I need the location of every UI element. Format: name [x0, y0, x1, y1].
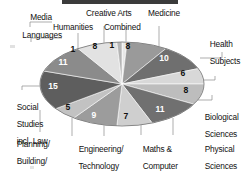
- label-languages: Languages: [0, 31, 62, 40]
- label-engineering-line1: Engineering/: [79, 144, 124, 154]
- value-biological: 8: [184, 85, 189, 95]
- label-physical-line2: Sciences: [205, 161, 237, 171]
- label-maths-line2: Computer: [143, 161, 178, 171]
- label-creative-arts: Creative Arts: [86, 9, 132, 18]
- label-health-subjects-line1: Health: [210, 39, 233, 49]
- label-planning-line2: Building/: [17, 156, 47, 166]
- label-social-line1: Social: [17, 102, 39, 112]
- label-media: Media: [0, 13, 52, 22]
- pie-ellipse-group: [40, 42, 204, 126]
- label-physical-line1: Physical: [205, 144, 235, 154]
- value-creative-arts: 1: [110, 40, 115, 50]
- value-media: 1: [71, 44, 76, 54]
- value-planning: 5: [66, 102, 71, 112]
- label-physical-sciences: Physical Sciences: [196, 136, 237, 172]
- value-engineering: 9: [92, 110, 97, 120]
- label-maths-line1: Maths &: [143, 144, 172, 154]
- value-combined: 8: [126, 41, 131, 51]
- label-social-line3: incl. Law: [17, 136, 48, 146]
- value-health-subjects: 6: [181, 68, 186, 78]
- label-social-studies: Social Studies incl. Law: [8, 94, 48, 154]
- value-humanities: 8: [93, 41, 98, 51]
- label-maths-computer: Maths & Computer: [134, 136, 178, 172]
- label-social-line2: Studies: [17, 119, 44, 129]
- pie-slices: [40, 42, 204, 126]
- value-social: 15: [48, 81, 58, 91]
- label-engineering-line2: Technology: [78, 161, 118, 171]
- scan-artifact-bottom: [30, 166, 34, 169]
- scan-artifact-left: [10, 45, 15, 48]
- value-medicine: 10: [159, 53, 169, 63]
- value-maths: 7: [124, 111, 129, 121]
- label-medicine: Medicine: [148, 9, 180, 18]
- label-biological-line1: Biological: [205, 112, 239, 122]
- label-engineering-technology: Engineering/ Technology: [70, 136, 123, 172]
- label-combined: Combined: [104, 23, 141, 32]
- value-languages: 11: [58, 57, 67, 67]
- value-physical: 11: [155, 104, 164, 114]
- pie-chart-figure: 1 8 1 8 10 6 8 11 7 9 5 15 11 Media Huma…: [0, 0, 244, 172]
- label-health-subjects-line2: Subjects: [210, 56, 241, 66]
- label-health-subjects: Health Subjects: [201, 31, 240, 74]
